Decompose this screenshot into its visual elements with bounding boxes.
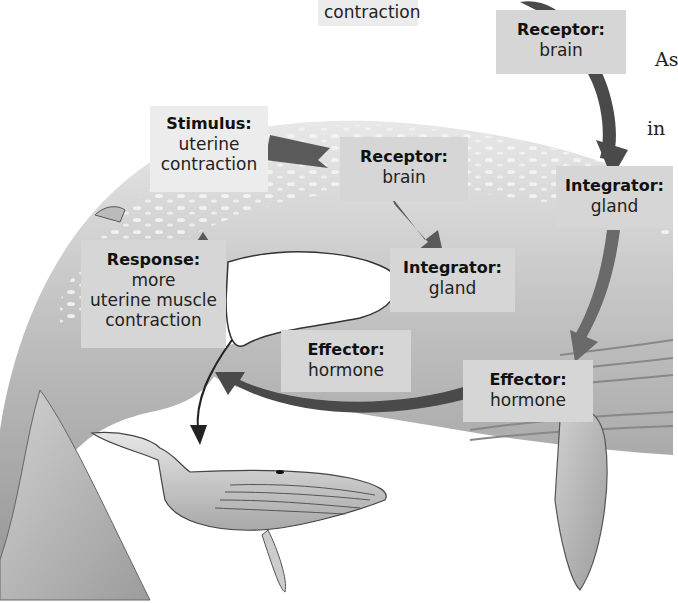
label-heading: Stimulus: [156, 114, 262, 134]
label-line: contraction [324, 2, 412, 22]
inner-integrator-label: Integrator: gland [390, 248, 515, 312]
label-line: contraction [156, 154, 262, 174]
label-heading: Integrator: [562, 176, 667, 196]
label-line: gland [396, 278, 509, 298]
side-text-line: in [647, 117, 678, 140]
label-heading: Response: [87, 250, 220, 270]
label-line: uterine muscle [87, 290, 220, 310]
label-line: gland [562, 196, 667, 216]
label-line: brain [502, 40, 620, 60]
response-label: Response: more uterine muscle contractio… [81, 240, 226, 348]
outer-receptor-label: Receptor: brain [496, 10, 626, 74]
outer-integrator-label: Integrator: gland [556, 166, 673, 228]
label-line: hormone [287, 360, 405, 380]
side-text-line: As [655, 48, 678, 71]
label-heading: Integrator: [396, 258, 509, 278]
stimulus-label: Stimulus: uterine contraction [150, 106, 268, 192]
label-heading: Effector: [469, 370, 587, 390]
label-heading: Receptor: [346, 147, 462, 167]
label-heading: Effector: [287, 340, 405, 360]
outer-effector-label: Effector: hormone [463, 360, 593, 422]
label-line: hormone [469, 390, 587, 410]
calf-whale [92, 432, 386, 592]
inner-receptor-label: Receptor: brain [340, 137, 468, 201]
outer-top-partial-label: contraction [318, 0, 418, 26]
inner-effector-label: Effector: hormone [281, 330, 411, 392]
label-line: uterine [156, 134, 262, 154]
label-line: more [87, 270, 220, 290]
label-heading: Receptor: [502, 20, 620, 40]
label-line: brain [346, 167, 462, 187]
label-line: contraction [87, 310, 220, 330]
